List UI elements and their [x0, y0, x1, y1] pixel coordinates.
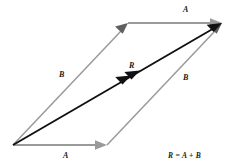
label-vector-a-bottom: A — [63, 152, 69, 160]
vector-parallelogram-figure: A A B B R R = A + B — [0, 0, 234, 168]
vector-b-left — [13, 23, 128, 145]
vector-b-left-arrowhead — [115, 23, 128, 34]
vector-r-resultant — [13, 23, 222, 145]
label-vector-a-top: A — [183, 6, 189, 14]
vector-b-right — [107, 23, 222, 145]
label-vector-r: R — [129, 62, 135, 70]
vector-a-bottom-arrowhead — [95, 140, 107, 150]
vector-b-right-shaft — [107, 31, 216, 146]
vector-diagram-canvas — [0, 0, 234, 168]
vector-a-top — [128, 18, 222, 28]
equation-label: R = A + B — [168, 152, 201, 160]
label-vector-b-right: B — [183, 74, 189, 82]
vector-b-left-shaft — [13, 31, 122, 146]
vector-a-bottom — [13, 140, 107, 150]
vector-r-shaft — [13, 27, 216, 145]
label-vector-b-left: B — [59, 71, 65, 79]
